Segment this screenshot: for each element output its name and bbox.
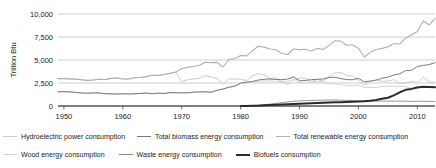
- x-tick-label: 1950: [56, 112, 73, 121]
- legend-swatch-line-icon: [236, 154, 250, 156]
- legend-item-total-renewable-energy-consumption[interactable]: Total renewable energy consumption: [276, 132, 409, 141]
- y-tick-label: 2,500: [34, 79, 53, 88]
- legend-swatch-line-icon: [119, 154, 133, 155]
- y-axis-title: Trillion Btu: [9, 42, 18, 77]
- series-line-biofuels-consumption: [241, 87, 435, 106]
- legend-swatch-line-icon: [276, 136, 290, 137]
- y-tick-label: 5,000: [34, 56, 53, 65]
- legend-label: Waste energy consumption: [137, 150, 222, 159]
- legend-item-biofuels-consumption[interactable]: Biofuels consumption: [236, 150, 321, 159]
- y-tick-label: 7,500: [34, 33, 53, 42]
- legend-label: Total renewable energy consumption: [294, 132, 409, 141]
- legend-row: Hydroelectric power consumptionTotal bio…: [0, 129, 436, 144]
- chart-legend: Hydroelectric power consumptionTotal bio…: [0, 126, 436, 168]
- legend-swatch-line-icon: [137, 136, 151, 137]
- series-line-wood-energy-consumption: [58, 79, 435, 94]
- legend-label: Biofuels consumption: [254, 150, 321, 159]
- x-tick-label: 1960: [114, 112, 131, 121]
- series-line-total-renewable-energy-consumption: [58, 19, 435, 81]
- legend-swatch-line-icon: [3, 136, 17, 137]
- x-tick-label: 1990: [291, 112, 308, 121]
- x-tick-label: 1970: [173, 112, 190, 121]
- legend-row: Wood energy consumptionWaste energy cons…: [0, 147, 436, 162]
- chart-svg: 02,5005,0007,50010,000195019601970198019…: [0, 0, 436, 124]
- legend-swatch-line-icon: [3, 154, 17, 155]
- chart-screenshot: 02,5005,0007,50010,000195019601970198019…: [0, 0, 436, 168]
- legend-item-hydroelectric-power-consumption[interactable]: Hydroelectric power consumption: [3, 132, 125, 141]
- y-tick-label: 10,000: [30, 10, 53, 19]
- legend-label: Hydroelectric power consumption: [21, 132, 125, 141]
- x-tick-label: 1980: [232, 112, 249, 121]
- x-tick-label: 2000: [350, 112, 367, 121]
- legend-item-waste-energy-consumption[interactable]: Waste energy consumption: [119, 150, 222, 159]
- line-chart: 02,5005,0007,50010,000195019601970198019…: [0, 0, 436, 124]
- legend-item-wood-energy-consumption[interactable]: Wood energy consumption: [3, 150, 105, 159]
- legend-item-total-biomass-energy-consumption[interactable]: Total biomass energy consumption: [137, 132, 263, 141]
- x-tick-label: 2010: [409, 112, 426, 121]
- legend-label: Wood energy consumption: [21, 150, 105, 159]
- legend-label: Total biomass energy consumption: [155, 132, 263, 141]
- y-tick-label: 0: [49, 102, 53, 111]
